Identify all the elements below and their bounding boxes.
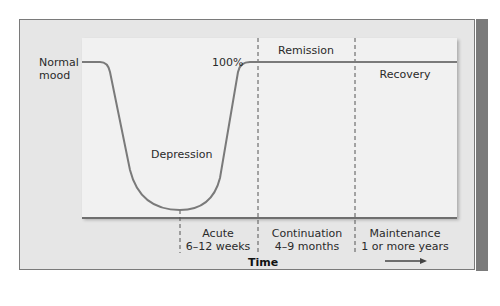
time-axis-label: Time [248,256,278,269]
hundred-percent-label: 100% [212,56,243,69]
mood-curve [82,62,457,210]
phase-continuation: Continuation 4–9 months [272,227,343,253]
time-arrow-icon [420,258,427,264]
recovery-label: Recovery [379,68,430,81]
depression-label: Depression [151,148,213,161]
phase-acute: Acute 6–12 weeks [186,227,251,253]
phase-maintenance: Maintenance 1 or more years [361,227,449,253]
remission-label: Remission [278,44,334,57]
normal-mood-label: Normal mood [39,56,79,82]
